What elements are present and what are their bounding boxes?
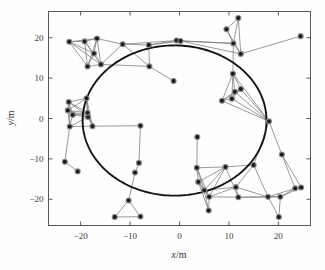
node-marker	[98, 62, 103, 67]
node-marker	[265, 194, 270, 199]
node-marker	[266, 119, 271, 124]
node-marker	[94, 36, 99, 41]
node-marker	[298, 34, 303, 39]
y-axis-tick-labels: 20100−10−20	[29, 33, 44, 205]
node-marker	[75, 169, 80, 174]
node-marker	[178, 38, 183, 43]
node-marker	[231, 41, 236, 46]
x-tick-label: −10	[123, 231, 138, 241]
node-marker	[223, 164, 228, 169]
node-marker	[62, 159, 67, 164]
node-marker	[136, 160, 141, 165]
node-marker	[238, 87, 243, 92]
x-tick-label: 10	[224, 231, 234, 241]
node-marker	[126, 198, 131, 203]
x-tick-label: 20	[274, 231, 284, 241]
node-marker	[251, 162, 256, 167]
node-marker	[224, 27, 229, 32]
node-marker	[236, 195, 241, 200]
x-tick-label: −20	[74, 231, 89, 241]
y-tick-label: 0	[39, 114, 44, 124]
node-marker	[82, 39, 87, 44]
y-axis-title: y/m	[5, 110, 16, 126]
node-marker	[70, 112, 75, 117]
node-marker	[85, 110, 90, 115]
node-marker	[236, 15, 241, 20]
node-marker	[238, 51, 243, 56]
node-marker	[171, 78, 176, 83]
node-marker	[120, 42, 125, 47]
node-marker	[84, 96, 89, 101]
x-axis-title: x/m	[170, 249, 186, 260]
node-marker	[194, 165, 199, 170]
node-marker	[220, 98, 225, 103]
node-marker	[202, 188, 207, 193]
node-marker	[299, 185, 304, 190]
x-tick-label: 0	[177, 231, 182, 241]
x-axis-tick-labels: −20−1001020	[74, 231, 284, 241]
scatter-plot: −20−1001020 20100−10−20 x/m y/m	[0, 0, 325, 270]
node-marker	[138, 214, 143, 219]
node-marker	[147, 64, 152, 69]
node-marker	[67, 39, 72, 44]
node-marker	[232, 89, 237, 94]
node-marker	[138, 123, 143, 128]
node-marker	[66, 99, 71, 104]
y-tick-label: 20	[35, 33, 45, 43]
node-marker	[67, 124, 72, 129]
figure-container: −20−1001020 20100−10−20 x/m y/m	[0, 0, 325, 270]
node-marker	[279, 152, 284, 157]
node-marker	[65, 108, 70, 113]
node-marker	[229, 96, 234, 101]
node-marker	[85, 64, 90, 69]
node-marker	[276, 215, 281, 220]
node-marker	[133, 170, 138, 175]
node-marker	[278, 194, 283, 199]
node-marker	[206, 208, 211, 213]
node-marker	[207, 194, 212, 199]
y-tick-label: −10	[29, 154, 44, 164]
y-tick-label: 10	[35, 73, 45, 83]
node-marker	[91, 51, 96, 56]
node-marker	[146, 43, 151, 48]
node-marker	[195, 135, 200, 140]
node-marker	[196, 179, 201, 184]
node-marker	[90, 124, 95, 129]
node-marker	[230, 71, 235, 76]
node-marker	[233, 185, 238, 190]
node-marker	[293, 186, 298, 191]
y-tick-label: −20	[29, 194, 44, 204]
node-marker	[112, 215, 117, 220]
